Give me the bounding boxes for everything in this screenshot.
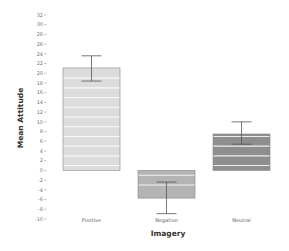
y-tick-label: 24 bbox=[37, 51, 43, 57]
y-axis: 32302826242220181614121086420-2-4-6-8-10 bbox=[35, 12, 47, 222]
y-tick-label: 8 bbox=[40, 128, 43, 134]
y-tick-label: -10 bbox=[35, 216, 43, 222]
y-tick-label: 14 bbox=[37, 99, 43, 105]
y-tick-label: 12 bbox=[37, 109, 43, 115]
y-tick-label: 10 bbox=[37, 119, 43, 125]
bar-negative bbox=[138, 170, 195, 213]
x-category-label: Positive bbox=[82, 217, 101, 223]
y-tick-label: 4 bbox=[40, 148, 43, 154]
x-category-label: Neutral bbox=[232, 217, 250, 223]
bar-neutral bbox=[213, 122, 270, 171]
y-tick-label: 30 bbox=[37, 21, 43, 27]
y-tick-label: 18 bbox=[37, 80, 43, 86]
y-tick-label: -8 bbox=[38, 206, 43, 212]
bar-positive bbox=[63, 56, 120, 171]
y-tick-label: -4 bbox=[38, 187, 43, 193]
y-tick-label: 2 bbox=[40, 157, 43, 163]
y-tick-label: 28 bbox=[37, 31, 43, 37]
bar-chart: 32302826242220181614121086420-2-4-6-8-10… bbox=[0, 0, 289, 251]
y-tick-label: 32 bbox=[37, 12, 43, 18]
y-tick-label: -2 bbox=[38, 177, 43, 183]
y-tick-label: 6 bbox=[40, 138, 43, 144]
y-tick-label: 20 bbox=[37, 70, 43, 76]
y-tick-label: 0 bbox=[40, 167, 43, 173]
y-tick-label: 26 bbox=[37, 41, 43, 47]
x-axis-labels: PositiveNegativeNeutral bbox=[82, 217, 251, 224]
x-category-label: Negative bbox=[155, 217, 177, 224]
y-tick-label: 16 bbox=[37, 89, 43, 95]
y-axis-title: Mean Attitude bbox=[16, 88, 25, 149]
y-tick-label: -6 bbox=[38, 196, 43, 202]
bar-rect bbox=[63, 68, 120, 170]
y-tick-label: 22 bbox=[37, 60, 43, 66]
bars bbox=[63, 56, 270, 214]
x-axis-title: Imagery bbox=[151, 229, 186, 238]
